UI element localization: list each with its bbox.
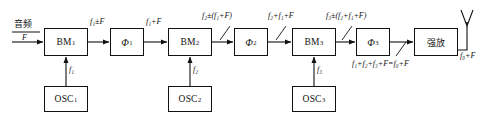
label-osc2-feed: f₂ bbox=[193, 66, 198, 74]
block-osc1-label: OSC bbox=[55, 94, 74, 104]
wire-pa-antenna bbox=[458, 26, 467, 50]
block-osc3-sub: 3 bbox=[322, 96, 325, 103]
block-phi2-sub: 2 bbox=[253, 39, 256, 46]
label-input-symbol: F bbox=[22, 34, 27, 42]
label-osc1-feed: f₁ bbox=[69, 66, 74, 74]
block-osc2[interactable]: OSC2 bbox=[168, 86, 212, 112]
block-bm1[interactable]: BM1 bbox=[44, 28, 88, 56]
block-diagram-canvas: BM1 Φ1 BM2 Φ2 BM3 Φ3 强放 OSC1 OSC2 OSC3 音… bbox=[0, 0, 491, 121]
antenna-icon bbox=[461, 10, 473, 26]
block-power-amplifier-label: 强放 bbox=[427, 36, 445, 49]
block-osc2-sub: 2 bbox=[198, 96, 201, 103]
label-stage2-out: f₂±(f₁+F) bbox=[202, 12, 232, 20]
block-bm3-sub: 3 bbox=[320, 39, 323, 46]
block-phi1[interactable]: Φ1 bbox=[110, 28, 144, 56]
block-phi1-sub: 1 bbox=[129, 39, 132, 46]
block-bm1-label: BM bbox=[57, 37, 72, 47]
label-stage1-filtered: f₁+F bbox=[146, 18, 161, 26]
block-bm2[interactable]: BM2 bbox=[168, 28, 212, 56]
block-phi1-label: Φ bbox=[121, 37, 129, 48]
block-power-amplifier[interactable]: 强放 bbox=[414, 28, 458, 56]
block-bm3-label: BM bbox=[305, 37, 320, 47]
label-osc3-feed: f₃ bbox=[317, 66, 322, 74]
block-osc1-sub: 1 bbox=[74, 96, 77, 103]
block-phi2[interactable]: Φ2 bbox=[234, 28, 268, 56]
block-osc3-label: OSC bbox=[303, 94, 322, 104]
block-osc1[interactable]: OSC1 bbox=[44, 86, 88, 112]
label-stage3-out: f₃±(f₂+f₁+F) bbox=[326, 12, 366, 20]
label-antenna-output: f₀+F bbox=[460, 52, 475, 60]
leader-stage2-filtered bbox=[276, 26, 286, 40]
block-phi3[interactable]: Φ3 bbox=[356, 28, 390, 56]
block-osc3[interactable]: OSC3 bbox=[292, 86, 336, 112]
label-stage2-filtered: f₂+f₁+F bbox=[268, 12, 294, 20]
block-phi3-label: Φ bbox=[367, 37, 375, 48]
block-osc2-label: OSC bbox=[179, 94, 198, 104]
block-phi3-sub: 3 bbox=[375, 39, 378, 46]
label-stage3-filtered-formula: f₁+f₂+f₃+F=f₀+F bbox=[352, 60, 409, 68]
leader-stage3-out bbox=[342, 26, 352, 40]
label-stage1-out: f₁±F bbox=[90, 18, 104, 26]
leader-stage3-formula bbox=[396, 42, 406, 56]
block-bm2-sub: 2 bbox=[196, 39, 199, 46]
block-bm2-label: BM bbox=[181, 37, 196, 47]
block-bm1-sub: 1 bbox=[72, 39, 75, 46]
block-bm3[interactable]: BM3 bbox=[292, 28, 336, 56]
leader-stage2-out bbox=[220, 26, 230, 40]
label-input-audio: 音频 bbox=[14, 20, 32, 29]
block-phi2-label: Φ bbox=[245, 37, 253, 48]
